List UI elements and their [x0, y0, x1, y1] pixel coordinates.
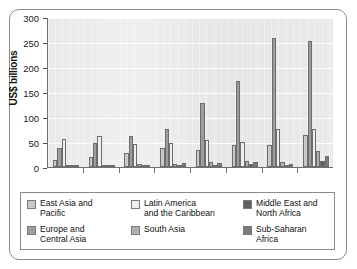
y-tick-label: 100	[13, 113, 39, 124]
y-tick-mark	[43, 18, 47, 19]
grid-line	[48, 118, 333, 119]
y-tick-label: 300	[13, 13, 39, 24]
grid-line	[48, 68, 333, 69]
bar	[110, 165, 114, 167]
legend-swatch-icon	[243, 200, 252, 209]
bar	[62, 139, 66, 168]
bar	[253, 162, 257, 168]
legend-label: Sub-Saharan Africa	[256, 224, 307, 245]
legend-item: Europe and Central Asia	[27, 224, 131, 250]
bar	[289, 164, 293, 168]
legend-swatch-icon	[131, 226, 140, 235]
x-tick-mark	[262, 168, 263, 173]
y-tick-mark	[43, 168, 47, 169]
bar	[74, 165, 78, 167]
legend-item: Sub-Saharan Africa	[243, 224, 339, 250]
chart-figure: US$ billions 050100150200250300 20002001…	[0, 0, 357, 269]
x-tick-mark	[190, 168, 191, 173]
y-tick-label: 200	[13, 63, 39, 74]
chart-plot-area: 050100150200250300 200020012002200320042…	[47, 18, 333, 170]
bar	[146, 165, 150, 167]
y-tick-mark	[43, 43, 47, 44]
x-tick-mark	[297, 168, 298, 173]
x-tick-mark	[226, 168, 227, 173]
legend-label: Middle East and North Africa	[256, 198, 318, 219]
legend-swatch-icon	[27, 226, 36, 235]
legend-label: Latin America and the Caribbean	[144, 198, 215, 219]
legend-label: East Asia and Pacific	[40, 198, 93, 219]
legend-swatch-icon	[131, 200, 140, 209]
legend-item: South Asia	[131, 224, 243, 250]
bar	[217, 163, 221, 167]
y-tick-label: 0	[13, 163, 39, 174]
legend-item: Latin America and the Caribbean	[131, 198, 243, 224]
chart-legend: East Asia and PacificLatin America and t…	[20, 192, 335, 250]
legend-item: East Asia and Pacific	[27, 198, 131, 224]
legend-item: Middle East and North Africa	[243, 198, 339, 224]
y-tick-label: 150	[13, 88, 39, 99]
y-tick-mark	[43, 143, 47, 144]
grid-line	[48, 43, 333, 44]
y-tick-label: 250	[13, 38, 39, 49]
legend-label: South Asia	[144, 224, 185, 234]
legend-swatch-icon	[243, 226, 252, 235]
x-tick-mark	[83, 168, 84, 173]
legend-swatch-icon	[27, 200, 36, 209]
bar	[182, 163, 186, 167]
y-tick-label: 50	[13, 138, 39, 149]
bar	[97, 136, 101, 168]
plot-canvas	[47, 18, 333, 168]
y-tick-mark	[43, 118, 47, 119]
x-tick-mark	[119, 168, 120, 173]
grid-line	[48, 143, 333, 144]
bar	[325, 156, 329, 167]
y-tick-mark	[43, 68, 47, 69]
grid-line	[48, 18, 333, 19]
legend-label: Europe and Central Asia	[40, 224, 86, 245]
x-tick-mark	[154, 168, 155, 173]
grid-line	[48, 93, 333, 94]
y-tick-mark	[43, 93, 47, 94]
